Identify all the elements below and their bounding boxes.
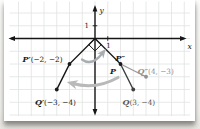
- point-label-Q: Q(3, −4): [123, 97, 156, 107]
- point-label-P-prime: P′(−2, −2): [22, 54, 63, 64]
- point-label-P-double-prime: P″: [115, 53, 126, 63]
- point-dot-Q: [131, 88, 135, 92]
- y-axis-label: y: [99, 6, 105, 15]
- point-dot-P-prime: [68, 62, 72, 66]
- x-axis-right-arrow-icon: [180, 36, 187, 41]
- x-axis-label: x: [188, 42, 193, 51]
- point-dot-Q-prime: [55, 88, 59, 92]
- figure-card: x y 1 1 PP′(−2, −2)P″Q(3, −4)Q′(−3, −4)Q…: [4, 0, 195, 121]
- x-axis-tick-label: 1: [106, 42, 110, 50]
- y-axis-up-arrow-icon: [93, 5, 98, 12]
- point-label-Q-double-prime: Q″(4, −3): [138, 66, 174, 76]
- point-label-Q-prime: Q′(−3, −4): [35, 97, 76, 107]
- coordinate-plane-figure: x y 1 1 PP′(−2, −2)P″Q(3, −4)Q′(−3, −4)Q…: [4, 0, 195, 121]
- small-arrow-rotation-icon: [82, 53, 103, 63]
- x-axis-left-arrow-icon: [9, 36, 16, 41]
- y-axis-tick-label: 1: [85, 22, 89, 30]
- point-label-P: P: [109, 66, 117, 76]
- page-background: x y 1 1 PP′(−2, −2)P″Q(3, −4)Q′(−3, −4)Q…: [0, 0, 200, 129]
- y-axis-down-arrow-icon: [93, 109, 98, 116]
